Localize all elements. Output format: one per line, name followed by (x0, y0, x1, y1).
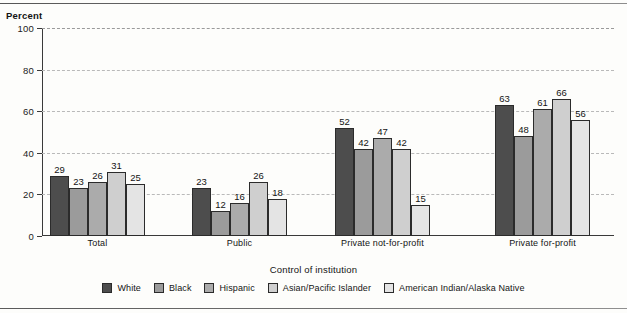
legend-label: Black (169, 283, 192, 293)
x-tick-label-4: Private for-profit (509, 238, 576, 248)
bar[interactable]: 18 (268, 199, 287, 236)
bar[interactable]: 12 (211, 211, 230, 236)
bar[interactable]: 47 (373, 138, 392, 236)
bar[interactable]: 25 (126, 184, 145, 236)
bar[interactable]: 42 (354, 149, 373, 236)
bar[interactable]: 26 (249, 182, 268, 236)
legend-item-4[interactable]: Asian/Pacific Islander (268, 283, 371, 293)
bars: 5242474215 (335, 28, 430, 236)
bar-value-label: 31 (111, 161, 122, 171)
legend-swatch-icon (268, 283, 278, 293)
bar-value-label: 63 (499, 94, 510, 104)
x-tick-label-3: Private not-for-profit (341, 238, 424, 248)
chart-figure: Percent 020406080100 2923263125Total2312… (0, 0, 627, 313)
y-axis-title: Percent (6, 10, 42, 21)
bar-group-4: 6348616656Private for-profit (495, 28, 590, 236)
bar-value-label: 42 (396, 138, 407, 148)
bar-value-label: 42 (358, 138, 369, 148)
bar-groups: 2923263125Total2312162618Public524247421… (42, 28, 614, 236)
bar[interactable]: 15 (411, 205, 430, 236)
y-tick-label-0: 0 (29, 232, 34, 241)
bar-group-1: 2923263125Total (50, 28, 145, 236)
y-tick-label-80: 80 (23, 65, 34, 74)
legend-swatch-icon (154, 283, 164, 293)
bar-value-label: 12 (215, 200, 226, 210)
legend-item-1[interactable]: White (102, 283, 141, 293)
legend-item-2[interactable]: Black (154, 283, 192, 293)
legend-label: Asian/Pacific Islander (283, 283, 371, 293)
x-axis-title: Control of institution (0, 264, 627, 275)
legend-item-5[interactable]: American Indian/Alaska Native (384, 283, 524, 293)
bar-group-2: 2312162618Public (192, 28, 287, 236)
bar[interactable]: 52 (335, 128, 354, 236)
bar[interactable]: 42 (392, 149, 411, 236)
bar-value-label: 26 (92, 171, 103, 181)
bar-value-label: 15 (415, 194, 426, 204)
bar[interactable]: 66 (552, 99, 571, 236)
bar[interactable]: 16 (230, 203, 249, 236)
x-tick-label-2: Public (227, 238, 252, 248)
figure-bottom-rule (0, 308, 627, 309)
bar-value-label: 47 (377, 127, 388, 137)
legend-label: White (117, 283, 141, 293)
bar-group-3: 5242474215Private not-for-profit (335, 28, 430, 236)
y-tick-0 (37, 236, 42, 237)
bar[interactable]: 48 (514, 136, 533, 236)
figure-top-rule (0, 3, 627, 4)
bars: 2923263125 (50, 28, 145, 236)
legend-swatch-icon (102, 283, 112, 293)
bar-value-label: 66 (556, 88, 567, 98)
plot-area: 020406080100 2923263125Total2312162618Pu… (42, 28, 614, 236)
legend-swatch-icon (384, 283, 394, 293)
bar-value-label: 52 (339, 117, 350, 127)
y-tick-label-60: 60 (23, 107, 34, 116)
legend-label: Hispanic (219, 283, 254, 293)
bar-value-label: 23 (73, 177, 84, 187)
bar-value-label: 29 (54, 165, 65, 175)
bar[interactable]: 56 (571, 120, 590, 236)
y-tick-label-40: 40 (23, 148, 34, 157)
bars: 2312162618 (192, 28, 287, 236)
bar[interactable]: 63 (495, 105, 514, 236)
chart-legend: WhiteBlackHispanicAsian/Pacific Islander… (0, 283, 627, 293)
bar[interactable]: 26 (88, 182, 107, 236)
bar-value-label: 26 (253, 171, 264, 181)
bar-value-label: 18 (272, 188, 283, 198)
bars: 6348616656 (495, 28, 590, 236)
bar[interactable]: 31 (107, 172, 126, 236)
x-tick-label-1: Total (88, 238, 108, 248)
bar[interactable]: 23 (192, 188, 211, 236)
bar[interactable]: 61 (533, 109, 552, 236)
bar-value-label: 23 (196, 177, 207, 187)
bar[interactable]: 23 (69, 188, 88, 236)
bar-value-label: 56 (575, 109, 586, 119)
legend-swatch-icon (204, 283, 214, 293)
legend-item-3[interactable]: Hispanic (204, 283, 254, 293)
bar-value-label: 48 (518, 125, 529, 135)
bar[interactable]: 29 (50, 176, 69, 236)
bar-value-label: 16 (234, 192, 245, 202)
bar-value-label: 25 (130, 173, 141, 183)
y-tick-label-20: 20 (23, 190, 34, 199)
legend-label: American Indian/Alaska Native (399, 283, 524, 293)
bar-value-label: 61 (537, 98, 548, 108)
y-tick-label-100: 100 (18, 24, 34, 33)
